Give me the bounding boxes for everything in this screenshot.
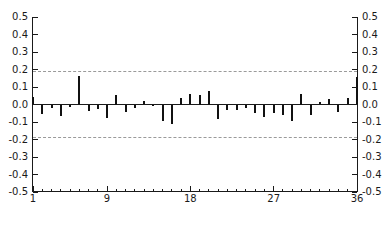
x-tick-34 [338,189,339,192]
bar-lag-12 [134,105,136,109]
bar-lag-5 [69,105,71,108]
bar-lag-14 [152,105,154,106]
x-tick-25 [255,189,256,192]
y-tick-right-0.3 [352,52,357,53]
bar-lag-36 [356,77,358,104]
y-axis-label-left--0.3: -0.3 [0,152,28,162]
x-tick-35 [347,189,348,192]
y-axis-label-left-0.4: 0.4 [0,30,28,40]
x-tick-6 [79,189,80,192]
y-axis-label-left-0.3: 0.3 [0,47,28,57]
bar-lag-32 [319,102,321,104]
x-tick-label-18: 18 [184,194,197,204]
y-tick-left-0.2 [33,69,38,70]
bar-lag-16 [171,105,173,124]
y-tick-left-0.5 [33,17,38,18]
y-axis-label-left--0.1: -0.1 [0,117,28,127]
x-tick-3 [51,189,52,192]
y-tick-left-0.0 [33,104,38,105]
right-axis-line [357,17,358,192]
bar-lag-4 [60,105,62,117]
bar-lag-18 [189,94,191,105]
bar-lag-8 [97,105,99,110]
bar-lag-21 [217,105,219,119]
bar-lag-26 [263,105,265,118]
x-tick-24 [245,189,246,192]
bar-lag-15 [162,105,164,122]
x-tick-26 [264,189,265,192]
x-tick-label-1: 1 [30,194,36,204]
y-axis-label-right--0.5: -0.5 [362,187,382,197]
bar-lag-23 [236,105,238,111]
bar-lag-3 [51,105,53,108]
y-tick-left--0.2 [33,139,38,140]
x-tick-18 [190,186,191,192]
zero-reference-line [33,104,357,105]
y-axis-label-right-0.3: 0.3 [362,47,378,57]
y-axis-label-right--0.1: -0.1 [362,117,382,127]
y-axis-label-left-0.0: 0.0 [0,100,28,110]
x-tick-27 [273,186,274,192]
bar-lag-29 [291,105,293,122]
plot-area [32,17,358,192]
bar-lag-28 [282,105,284,115]
acf-correlogram-chart: 0.50.50.40.40.30.30.20.20.10.10.00.0-0.1… [0,0,390,232]
y-axis-label-right--0.4: -0.4 [362,170,382,180]
y-axis-label-left-0.1: 0.1 [0,82,28,92]
x-tick-9 [107,186,108,192]
bar-lag-6 [78,76,80,105]
x-tick-17 [181,189,182,192]
y-axis-label-right-0.0: 0.0 [362,100,378,110]
y-tick-left--0.3 [33,157,38,158]
y-axis-label-left--0.2: -0.2 [0,135,28,145]
x-tick-23 [236,189,237,192]
bar-lag-34 [337,105,339,112]
x-tick-22 [227,189,228,192]
x-tick-29 [292,189,293,192]
y-axis-label-right--0.3: -0.3 [362,152,382,162]
bar-lag-11 [125,105,127,112]
x-tick-30 [301,189,302,192]
y-axis-label-right-0.2: 0.2 [362,65,378,75]
y-tick-right-0.5 [352,17,357,18]
y-axis-label-right--0.2: -0.2 [362,135,382,145]
y-tick-left--0.4 [33,174,38,175]
y-tick-left--0.1 [33,122,38,123]
x-tick-31 [310,189,311,192]
bar-lag-33 [328,99,330,104]
y-tick-right--0.1 [352,122,357,123]
y-tick-right-0.2 [352,69,357,70]
bar-lag-20 [208,91,210,104]
y-tick-left-0.3 [33,52,38,53]
y-axis-label-left--0.5: -0.5 [0,187,28,197]
y-tick-left-0.4 [33,34,38,35]
y-axis-label-right-0.4: 0.4 [362,30,378,40]
y-tick-right-0.1 [352,87,357,88]
x-tick-32 [319,189,320,192]
y-tick-right--0.3 [352,157,357,158]
bar-lag-35 [347,98,349,105]
bar-lag-30 [300,94,302,105]
y-axis-label-right-0.1: 0.1 [362,82,378,92]
bar-lag-31 [310,105,312,115]
bar-lag-24 [245,105,247,109]
y-tick-right-0.0 [352,104,357,105]
bar-lag-7 [88,105,90,112]
bar-lag-17 [180,98,182,105]
bar-lag-19 [199,95,201,105]
x-tick-14 [153,189,154,192]
y-tick-right--0.2 [352,139,357,140]
x-tick-11 [125,189,126,192]
x-tick-28 [282,189,283,192]
bar-lag-9 [106,105,108,118]
x-tick-4 [60,189,61,192]
upper-confidence-band [33,71,357,72]
x-tick-13 [144,189,145,192]
y-tick-right--0.4 [352,174,357,175]
x-tick-2 [42,189,43,192]
bar-lag-10 [115,95,117,105]
y-axis-label-left-0.2: 0.2 [0,65,28,75]
x-tick-15 [162,189,163,192]
y-axis-label-right-0.5: 0.5 [362,12,378,22]
y-tick-right-0.4 [352,34,357,35]
